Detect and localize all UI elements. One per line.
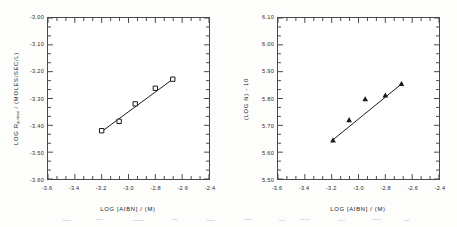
y-tick-label: -3.60 [20,177,44,183]
y-tick-label: 6.10 [250,14,274,20]
y-tick-label: 5.70 [250,123,274,129]
data-point-marker [99,129,103,133]
x-tick-label: -3.0 [353,185,364,191]
y-axis-title-left-subscript: p,max [14,111,19,124]
y-tick-label: -3.10 [20,41,44,47]
y-tick-label: 5.90 [250,68,274,74]
x-tick-label: -3.4 [69,185,80,191]
y-tick-label: -3.00 [20,14,44,20]
y-axis-title-left: LOG Rp,max / (MOLES/SEC/L) [12,52,19,145]
x-tick-label: -2.4 [435,185,446,191]
scan-artifact [0,216,457,227]
y-tick-label: -3.40 [20,123,44,129]
y-tick-label: -3.20 [20,68,44,74]
x-tick-label: -2.6 [178,185,189,191]
y-axis-title-left-main: LOG R [12,123,18,145]
plot-area-right [278,18,439,179]
y-tick-label: 6.00 [250,41,274,47]
x-tick-label: -2.6 [408,185,419,191]
x-tick-label: -3.6 [42,185,53,191]
chart-panel-right: 6.106.005.905.805.705.605.50-3.6-3.4-3.2… [229,0,457,227]
y-tick-label: -3.30 [20,96,44,102]
data-point-marker [171,77,175,81]
x-axis-title-left: LOG [AIBN] / (M) [100,206,155,212]
chart-panel-left: -3.00-3.10-3.20-3.30-3.40-3.50-3.60-3.6-… [0,0,228,227]
x-tick-label: -2.8 [150,185,161,191]
y-tick-label: 5.60 [250,150,274,156]
y-axis-title-left-units: / (MOLES/SEC/L) [12,52,18,111]
y-tick-label: 5.80 [250,96,274,102]
x-tick-label: -3.4 [299,185,310,191]
x-tick-label: -3.2 [326,185,337,191]
plot-area-left [48,18,209,179]
plot-frame-right [277,17,440,180]
data-point-marker [117,119,121,123]
figure-container: -3.00-3.10-3.20-3.30-3.40-3.50-3.60-3.6-… [0,0,457,227]
x-tick-label: -3.6 [272,185,283,191]
x-tick-label: -3.2 [96,185,107,191]
plot-frame-left [47,17,210,180]
x-tick-label: -2.8 [380,185,391,191]
y-axis-title-right: (LOG N) - 10 [243,78,249,120]
data-point-marker [133,102,137,106]
data-point-marker [399,81,405,86]
data-point-marker [346,117,352,122]
x-axis-title-right: LOG [AIBN] / (M) [330,206,385,212]
x-tick-label: -2.4 [205,185,216,191]
data-point-marker [153,86,157,90]
y-tick-label: -3.50 [20,150,44,156]
data-point-marker [362,96,368,101]
x-tick-label: -3.0 [123,185,134,191]
y-tick-label: 5.50 [250,177,274,183]
